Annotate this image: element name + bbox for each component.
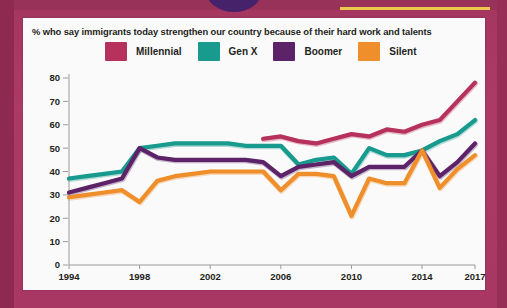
y-tick-label: 40 [49,166,60,177]
series-line-millennial[interactable] [263,83,475,144]
y-tick-label: 60 [49,119,60,130]
x-tick-label: 2014 [411,271,433,282]
x-tick-label: 1998 [129,271,150,282]
x-tick-label: 1994 [58,271,80,282]
y-tick-label: 20 [49,213,60,224]
magazine-page: % who say immigrants today strengthen ou… [0,0,507,308]
line-chart-svg: 0102030405060708019941998200220062010201… [23,18,485,290]
y-tick-label: 0 [55,259,60,270]
y-tick-label: 80 [49,72,60,83]
x-tick-label: 2017 [464,271,485,282]
y-tick-label: 50 [49,143,60,154]
decorative-yellow-rule [340,7,490,10]
plot-area: 0102030405060708019941998200220062010201… [23,18,485,290]
y-tick-label: 70 [49,96,60,107]
x-tick-label: 2006 [270,271,291,282]
page-frame-right-edge [497,0,507,308]
x-tick-label: 2010 [341,271,362,282]
chart-card: % who say immigrants today strengthen ou… [23,18,485,290]
page-frame-left-edge [0,0,14,308]
y-tick-label: 10 [49,236,60,247]
y-tick-label: 30 [49,189,60,200]
x-tick-label: 2002 [200,271,221,282]
